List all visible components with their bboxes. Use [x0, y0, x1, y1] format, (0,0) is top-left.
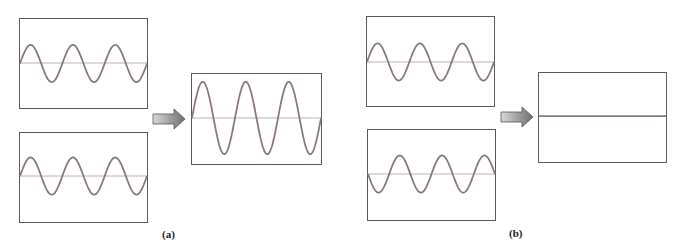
- sine-wave-icon: [20, 19, 147, 108]
- sine-wave-icon: [192, 74, 321, 164]
- part-a-input-wave-2: [19, 132, 148, 223]
- part-a-input-wave-1: [19, 18, 148, 109]
- sine-wave-icon: [367, 17, 494, 106]
- part-b-label: (b): [509, 227, 522, 239]
- part-b-result-flat: [538, 72, 667, 163]
- part-a-result-wave: [191, 73, 322, 165]
- part-a-label: (a): [162, 228, 175, 240]
- sine-wave-icon: [20, 133, 147, 222]
- sine-wave-icon: [368, 130, 495, 220]
- part-b-input-wave-1: [366, 16, 495, 107]
- flat-line-icon: [539, 73, 666, 162]
- arrow-right-icon: [500, 106, 534, 128]
- part-b-input-wave-2: [367, 129, 496, 221]
- arrow-right-icon: [152, 108, 186, 130]
